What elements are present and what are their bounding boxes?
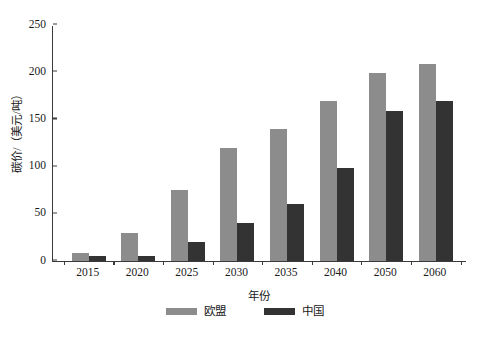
bar-china xyxy=(337,168,354,261)
bar-eu xyxy=(369,73,386,261)
bar-eu xyxy=(171,190,188,261)
x-axis-tick-mark xyxy=(461,261,462,265)
legend-swatch-icon xyxy=(264,308,295,315)
y-axis-tick-label: 50 xyxy=(35,207,47,219)
bar-china xyxy=(188,242,205,261)
bar-group xyxy=(262,26,312,261)
y-axis-title-text: 碳价/（美元/吨） xyxy=(8,89,24,172)
y-axis-tick-label: 150 xyxy=(29,113,46,125)
bars-layer xyxy=(53,26,466,261)
x-axis-tick-mark xyxy=(262,261,263,265)
y-axis-title: 碳价/（美元/吨） xyxy=(6,0,26,262)
bar-group xyxy=(163,26,213,261)
legend-label: 欧盟 xyxy=(204,306,226,318)
y-axis-tick-label: 0 xyxy=(40,254,46,266)
chart-legend: 欧盟中国 xyxy=(0,306,490,318)
x-axis-tick-label: 2030 xyxy=(225,266,248,278)
bar-china xyxy=(237,223,254,261)
bar-group xyxy=(213,26,263,261)
bar-group xyxy=(113,26,163,261)
bar-eu xyxy=(121,233,138,261)
y-axis-tick-mark xyxy=(53,24,57,25)
bar-eu xyxy=(320,101,337,261)
x-axis-tick-mark xyxy=(213,261,214,265)
y-axis-tick-label: 100 xyxy=(29,160,46,172)
bar-eu xyxy=(270,129,287,261)
bar-china xyxy=(436,101,453,261)
legend-label: 中国 xyxy=(302,306,324,318)
x-axis-tick-label: 2050 xyxy=(374,266,397,278)
legend-swatch-icon xyxy=(166,308,197,315)
x-axis-tick-label: 2040 xyxy=(324,266,347,278)
x-axis-tick-label: 2015 xyxy=(76,266,99,278)
bar-group xyxy=(64,26,114,261)
x-axis-tick-mark xyxy=(411,261,412,265)
bar-chart: 碳价/（美元/吨） 050100150200250 20152020202520… xyxy=(0,0,490,337)
x-axis-tick-label: 2020 xyxy=(126,266,149,278)
x-axis-title: 年份 xyxy=(52,287,466,303)
y-axis-tick: 150 xyxy=(7,118,53,119)
y-axis-tick: 200 xyxy=(7,71,53,72)
bar-eu xyxy=(220,148,237,261)
plot-area: 050100150200250 xyxy=(52,26,466,262)
bar-china xyxy=(89,256,106,261)
y-axis-tick-label: 200 xyxy=(29,65,46,77)
x-axis-tick-mark xyxy=(113,261,114,265)
bar-group xyxy=(361,26,411,261)
x-axis-tick-mark xyxy=(64,261,65,265)
x-axis-tick-label: 2025 xyxy=(175,266,198,278)
x-axis-tick-mark xyxy=(361,261,362,265)
bar-eu xyxy=(419,64,436,261)
legend-item-eu[interactable]: 欧盟 xyxy=(166,306,226,318)
bar-china xyxy=(287,204,304,261)
y-axis-tick: 50 xyxy=(7,212,53,213)
x-axis-tick-label: 2060 xyxy=(423,266,446,278)
y-axis-tick: 100 xyxy=(7,165,53,166)
bar-eu xyxy=(72,253,89,261)
y-axis-tick-label: 250 xyxy=(29,18,46,30)
x-axis-tick-mark xyxy=(163,261,164,265)
y-axis-tick: 250 xyxy=(7,24,53,25)
bar-china xyxy=(386,111,403,261)
x-axis-tick-mark xyxy=(312,261,313,265)
bar-group xyxy=(411,26,461,261)
bar-china xyxy=(138,256,155,261)
x-axis-tick-label: 2035 xyxy=(275,266,298,278)
bar-group xyxy=(312,26,362,261)
y-axis-tick: 0 xyxy=(7,260,53,261)
legend-item-china[interactable]: 中国 xyxy=(264,306,324,318)
